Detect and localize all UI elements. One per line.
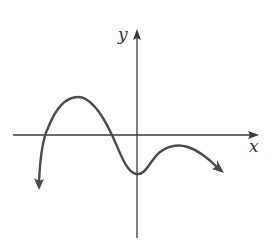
curve-right-arrow-icon [212,160,224,173]
function-curve [34,97,224,190]
function-graph [0,0,276,242]
x-axis-label: x [249,138,259,155]
y-axis [133,29,141,238]
y-axis-label: y [118,26,128,43]
x-axis [13,131,259,139]
